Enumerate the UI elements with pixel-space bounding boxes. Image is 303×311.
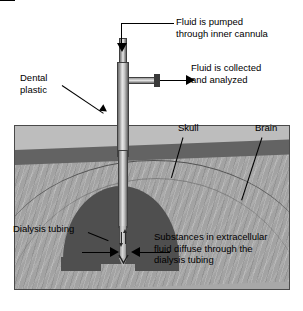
up-arrowhead-tubing-flow-icon: [123, 229, 127, 233]
left-arrow-diffusion-right-icon: [131, 247, 140, 257]
dental-plastic-arrowhead-icon: [99, 104, 109, 115]
label-skull: Skull: [178, 122, 199, 134]
inflow-leader-horizontal: [121, 23, 174, 24]
label-fluid-pumped: Fluid is pumped through inner cannula: [176, 16, 268, 39]
microdialysis-diagram: Fluid is pumped through inner cannula Fl…: [0, 0, 303, 311]
inflow-leader-vertical: [121, 23, 122, 45]
collection-outlet-arm: [128, 77, 157, 84]
outflow-arrow-line: [160, 80, 188, 82]
dental-plastic-leader-line: [62, 85, 104, 114]
label-dialysis-tubing: Dialysis tubing: [13, 223, 74, 235]
up-arrow-tubing-flow-icon: [125, 232, 126, 244]
substances-leader-line: [0, 0, 15, 1]
label-brain: Brain: [255, 122, 277, 134]
probe-tip-v-mark-icon: [118, 254, 129, 264]
label-fluid-collected: Fluid is collected and analyzed: [191, 62, 261, 85]
diffusion-arrow-left-line: [82, 252, 112, 254]
down-arrow-inflow-icon: [117, 43, 127, 52]
right-arrow-diffusion-left-icon: [110, 247, 119, 257]
label-dental-plastic: Dental plastic: [20, 72, 47, 95]
label-substances-diffuse: Substances in extracellular fluid diffus…: [154, 231, 268, 266]
down-arrowhead-tubing-flow-icon: [119, 243, 123, 247]
probe-shaft: [118, 150, 128, 228]
